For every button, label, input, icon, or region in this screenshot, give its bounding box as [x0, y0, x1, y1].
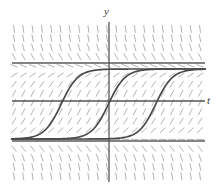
y-axis-label: y [104, 6, 109, 17]
direction-field-figure: y t [0, 0, 220, 189]
plot-canvas [0, 0, 220, 189]
t-axis-label: t [207, 95, 210, 106]
